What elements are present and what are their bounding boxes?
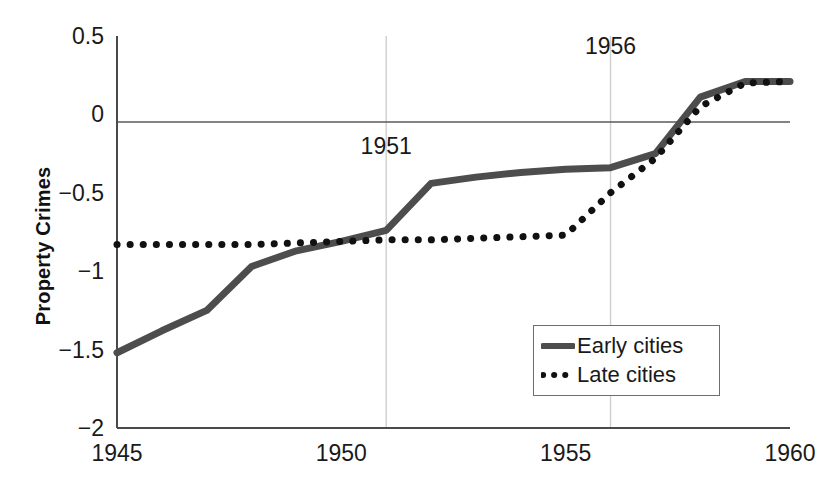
dotted-line-swatch-icon — [541, 366, 575, 384]
chart-figure: Property Crimes 0.50−0.5−1−1.5−2 1945195… — [0, 0, 831, 492]
annotation-label-1951: 1951 — [361, 133, 412, 160]
y-tick-label: −2 — [20, 415, 104, 442]
solid-line-swatch-icon — [541, 337, 575, 355]
y-tick-label: −1.5 — [20, 336, 104, 363]
y-tick-label: 0.5 — [20, 23, 104, 50]
annotation-label-1956: 1956 — [585, 33, 636, 60]
x-tick-label: 1955 — [540, 440, 591, 467]
x-tick-label: 1960 — [764, 440, 815, 467]
legend-label: Late cities — [577, 362, 676, 388]
legend-item-late-cities: Late cities — [541, 360, 709, 389]
x-tick-label: 1950 — [316, 440, 367, 467]
y-tick-label: 0 — [20, 101, 104, 128]
legend-label: Early cities — [577, 333, 683, 359]
chart-plot-area — [0, 0, 831, 492]
chart-legend: Early citiesLate cities — [533, 325, 720, 396]
y-tick-label: −1 — [20, 258, 104, 285]
legend-item-early-cities: Early cities — [541, 331, 709, 360]
x-tick-label: 1945 — [91, 440, 142, 467]
y-tick-label: −0.5 — [20, 179, 104, 206]
